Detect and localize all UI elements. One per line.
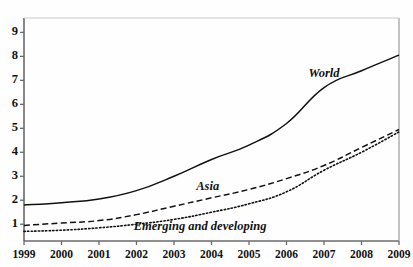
x-tick-label: 2009 [379,248,413,260]
y-tick-label: 4 [4,144,18,159]
y-tick-label: 1 [4,216,18,231]
x-tick-label: 2003 [154,248,194,260]
y-tick-label: 3 [4,168,18,183]
y-tick-label: 2 [4,192,18,207]
data-series-group [24,55,399,231]
chart-figure: 123456789 199920002001200220032004200520… [0,0,413,267]
series-label-emerging-and-developing: Emerging and developing [134,219,267,234]
y-tick-label: 7 [4,72,18,87]
y-tick-label: 8 [4,48,18,63]
series-label-world: World [309,66,340,81]
x-tick-label: 2005 [229,248,269,260]
y-tick-label: 9 [4,24,18,39]
x-tick-label: 2002 [117,248,157,260]
x-tick-label: 2004 [192,248,232,260]
x-tick-label: 2001 [79,248,119,260]
series-label-asia: Asia [196,179,219,194]
y-tick-label: 6 [4,96,18,111]
series-line-asia [24,130,399,226]
x-tick-label: 1999 [4,248,44,260]
x-tick-label: 2006 [267,248,307,260]
x-tick-label: 2008 [342,248,382,260]
x-tick-label: 2000 [42,248,82,260]
x-tick-label: 2007 [304,248,344,260]
axis-lines [24,18,399,241]
y-tick-label: 5 [4,120,18,135]
